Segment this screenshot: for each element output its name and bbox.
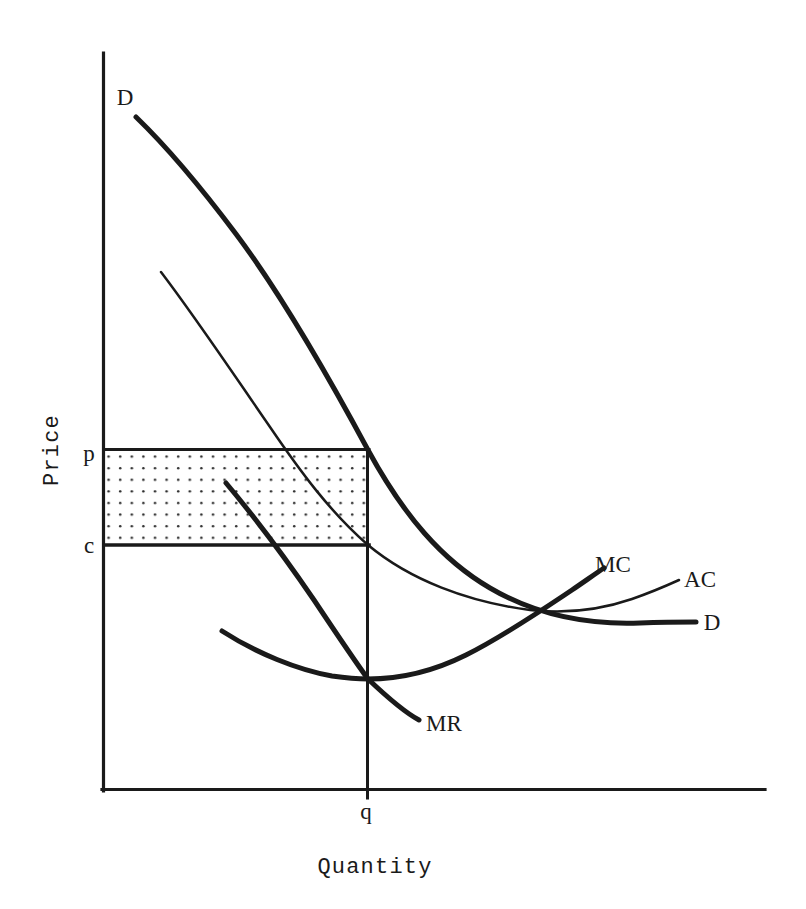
x-axis-title: Quantity xyxy=(317,855,432,880)
chart-canvas: D MC AC D MR p c q Price Quantity xyxy=(0,0,806,909)
cost-tick-label: c xyxy=(84,533,94,558)
economics-diagram: D MC AC D MR p c q Price Quantity xyxy=(0,0,806,909)
y-axis-title: Price xyxy=(40,414,65,486)
price-tick-label: p xyxy=(83,441,95,466)
demand-right-label: D xyxy=(704,610,721,635)
output-tick-label: q xyxy=(360,799,372,824)
demand-top-label: D xyxy=(117,85,134,110)
marginal-revenue-label: MR xyxy=(426,711,462,736)
marginal-cost-label: MC xyxy=(595,552,631,577)
average-cost-label: AC xyxy=(684,567,716,592)
